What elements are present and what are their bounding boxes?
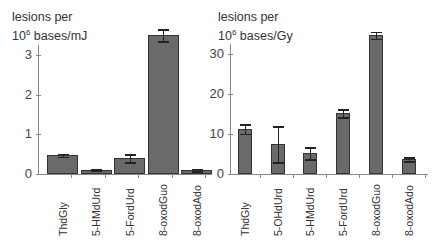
- error-cap-top: [158, 29, 169, 31]
- error-bar: [278, 126, 279, 162]
- error-cap-top: [240, 124, 251, 126]
- x-tick-label: 5-FordUrd: [124, 188, 136, 236]
- y-axis-line: [38, 45, 39, 174]
- y-tick: [228, 94, 233, 95]
- x-tick-label: 8-oxodAdo: [403, 185, 415, 236]
- error-cap-top: [404, 157, 415, 159]
- error-cap-top: [125, 154, 136, 156]
- y-tick-label: 2: [8, 88, 32, 101]
- y-tick-label: 20: [200, 87, 224, 100]
- y-axis-label: lesions per106 bases/Gy: [218, 9, 293, 44]
- error-cap-top: [338, 109, 349, 111]
- y-tick-label: 0: [200, 167, 224, 180]
- error-cap-bottom: [91, 171, 102, 173]
- x-tick: [293, 174, 294, 178]
- x-tick: [260, 174, 261, 178]
- error-cap-top: [273, 126, 284, 128]
- error-cap-bottom: [273, 162, 284, 164]
- y-tick-label: 30: [200, 47, 224, 60]
- x-tick-label: ThdGly: [239, 202, 251, 236]
- y-axis-label-unit: bases/Gy: [236, 29, 292, 43]
- x-axis-line: [38, 174, 212, 175]
- y-axis-label-line2: 106 bases/Gy: [218, 25, 293, 44]
- y-tick: [228, 134, 233, 135]
- error-cap-top: [371, 32, 382, 34]
- y-tick: [228, 54, 233, 55]
- error-bar: [163, 29, 164, 41]
- x-tick-label: 8-oxodGuo: [157, 184, 169, 236]
- y-tick-label: 1: [8, 127, 32, 140]
- y-axis-line: [230, 44, 231, 174]
- error-cap-bottom: [125, 162, 136, 164]
- chart-panel-uv: lesions per106 bases/mJ0123ThdGly5-HMdUr…: [0, 0, 220, 241]
- x-tick-label: 5-FordUrd: [337, 188, 349, 236]
- error-cap-bottom: [240, 134, 251, 136]
- x-tick: [71, 174, 72, 178]
- error-cap-bottom: [404, 161, 415, 163]
- y-axis-label-unit: bases/mJ: [30, 29, 87, 43]
- x-tick: [172, 174, 173, 178]
- y-tick: [36, 134, 41, 135]
- x-tick-label: 5-OHdUrd: [272, 188, 284, 236]
- y-tick: [36, 174, 41, 175]
- y-tick: [36, 95, 41, 96]
- y-tick: [36, 55, 41, 56]
- error-cap-top: [305, 147, 316, 149]
- y-axis-label-line2: 106 bases/mJ: [12, 25, 87, 44]
- chart-panel-gamma: lesions per106 bases/Gy0102030ThdGly5-OH…: [220, 0, 442, 241]
- bar-8-oxodguo: [369, 35, 383, 174]
- bar-thdgly: [238, 129, 252, 174]
- x-tick-label: 5-HMdUrd: [304, 188, 316, 236]
- x-tick-label: 8-oxodGuo: [370, 184, 382, 236]
- x-tick: [326, 174, 327, 178]
- error-cap-bottom: [158, 41, 169, 43]
- y-axis-label-line1: lesions per: [12, 9, 87, 25]
- error-cap-bottom: [371, 39, 382, 41]
- error-cap-bottom: [305, 159, 316, 161]
- x-tick: [425, 174, 426, 178]
- x-tick-label: 8-oxodAdo: [191, 185, 203, 236]
- y-tick-label: 0: [8, 167, 32, 180]
- x-tick: [105, 174, 106, 178]
- bar-8-oxodguo: [148, 35, 179, 174]
- error-cap-bottom: [58, 157, 69, 159]
- error-cap-bottom: [338, 117, 349, 119]
- x-tick: [392, 174, 393, 178]
- error-bar: [310, 147, 311, 159]
- y-axis-label: lesions per106 bases/mJ: [12, 9, 87, 44]
- y-tick-label: 3: [8, 48, 32, 61]
- x-tick-label: ThdGly: [57, 202, 69, 236]
- x-tick: [138, 174, 139, 178]
- bar-5-fordurd: [336, 113, 350, 174]
- x-tick: [359, 174, 360, 178]
- y-axis-label-line1: lesions per: [218, 9, 293, 25]
- error-cap-top: [58, 154, 69, 156]
- y-tick: [228, 174, 233, 175]
- y-axis-label-base: 10: [12, 29, 26, 43]
- y-tick-label: 10: [200, 127, 224, 140]
- y-axis-label-base: 10: [218, 29, 232, 43]
- x-tick-label: 5-HMdUrd: [90, 188, 102, 236]
